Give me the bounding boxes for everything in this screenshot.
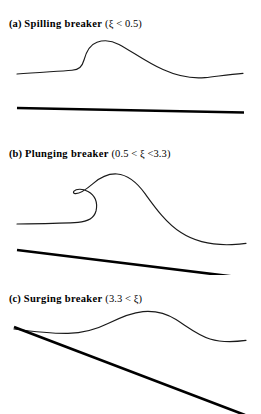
panel-title-a: Spilling breaker: [24, 18, 102, 29]
scene-plunging-breaker: [0, 152, 261, 275]
panel-label-a: (a): [9, 18, 22, 29]
scene-spilling-breaker: [0, 30, 261, 130]
seabed-line-b: [17, 250, 245, 275]
panel-spilling-breaker: (a) Spilling breaker (ξ < 0.5): [0, 0, 261, 130]
diagram-surging-breaker: [0, 297, 261, 414]
diagram-spilling-breaker: [0, 30, 261, 130]
water-surface-line-c: [14, 311, 246, 341]
water-surface-line-a: [17, 41, 243, 78]
seabed-line-a: [17, 108, 244, 113]
panel-surging-breaker: (c) Surging breaker (3.3 < ξ): [0, 275, 261, 414]
diagram-plunging-breaker: [0, 152, 261, 275]
panel-range-a: (ξ < 0.5): [105, 18, 142, 29]
seabed-line-c: [14, 327, 245, 414]
caption-spilling-breaker: (a) Spilling breaker (ξ < 0.5): [9, 18, 142, 30]
breaker-types-figure: (a) Spilling breaker (ξ < 0.5) (b) Plung…: [0, 0, 261, 414]
panel-plunging-breaker: (b) Plunging breaker (0.5 < ξ <3.3): [0, 130, 261, 275]
scene-surging-breaker: [0, 297, 261, 414]
water-surface-line-b: [17, 174, 246, 245]
